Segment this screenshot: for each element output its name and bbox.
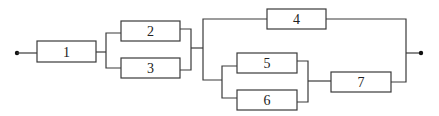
block-1: 1 (37, 41, 96, 62)
output-terminal-dot (419, 51, 423, 55)
block-4-label: 4 (293, 12, 300, 27)
join-2-3-right (180, 29, 191, 70)
reliability-diagram: 1 2 3 4 5 6 7 (0, 0, 439, 116)
split-2-3-left (106, 33, 121, 68)
join-5-6-right (297, 61, 308, 102)
block-3: 3 (121, 58, 180, 78)
block-4: 4 (267, 9, 326, 29)
block-1-label: 1 (63, 45, 70, 60)
block-2-label: 2 (147, 24, 154, 39)
block-2: 2 (121, 21, 180, 41)
block-7: 7 (331, 72, 391, 92)
block-3-label: 3 (147, 61, 154, 76)
split-5-6-left (222, 66, 237, 98)
block-5: 5 (237, 53, 297, 73)
block-6-label: 6 (264, 93, 271, 108)
block-6: 6 (237, 90, 297, 110)
block-7-label: 7 (358, 75, 365, 90)
block-5-label: 5 (264, 56, 271, 71)
